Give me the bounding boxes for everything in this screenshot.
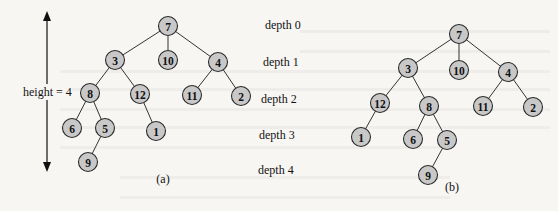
height-label: height = 4 — [23, 85, 72, 99]
node-label: 8 — [426, 101, 432, 113]
tree-node-10: 10 — [159, 51, 178, 70]
tree-node-7: 7 — [159, 17, 178, 36]
node-label: 5 — [444, 135, 450, 147]
tree-b-nodes: 731041281121659 — [352, 25, 543, 185]
tree-node-7: 7 — [450, 25, 469, 44]
tree-node-2: 2 — [232, 87, 251, 106]
depth-labels: depth 0 depth 1 depth 2 depth 3 depth 4 — [258, 18, 301, 177]
node-label: 6 — [69, 123, 75, 135]
depth-label-3: depth 3 — [259, 128, 295, 142]
node-label: 8 — [87, 88, 93, 100]
arrow-up-icon — [43, 11, 51, 21]
node-label: 2 — [530, 102, 536, 114]
node-label: 6 — [410, 134, 416, 146]
tree-node-1: 1 — [147, 122, 166, 141]
node-label: 7 — [456, 29, 462, 41]
depth-label-0: depth 0 — [265, 18, 301, 32]
node-label: 4 — [505, 67, 511, 79]
tree-node-2: 2 — [524, 98, 543, 117]
node-label: 9 — [85, 157, 91, 169]
tree-node-1: 1 — [352, 128, 371, 147]
tree-node-8: 8 — [81, 84, 100, 103]
node-label: 11 — [187, 90, 198, 102]
node-label: 10 — [453, 65, 465, 77]
depth-label-2: depth 2 — [261, 92, 297, 106]
tree-node-12: 12 — [371, 94, 390, 113]
tree-a-caption: (a) — [156, 172, 169, 186]
node-label: 12 — [374, 98, 386, 110]
tree-node-11: 11 — [474, 97, 493, 116]
tree-node-5: 5 — [96, 119, 115, 138]
tree-node-3: 3 — [399, 59, 418, 78]
depth-label-4: depth 4 — [258, 163, 294, 177]
depth-label-1: depth 1 — [263, 55, 299, 69]
tree-node-6: 6 — [63, 119, 82, 138]
tree-diagram: height = 4 depth 0 depth 1 depth 2 depth… — [0, 0, 558, 211]
node-label: 12 — [134, 89, 146, 101]
node-label: 5 — [102, 123, 108, 135]
tree-node-3: 3 — [106, 51, 125, 70]
tree-node-9: 9 — [419, 166, 438, 185]
tree-a: 731048121126519 (a) — [63, 17, 251, 187]
node-label: 7 — [165, 21, 171, 33]
tree-node-11: 11 — [183, 86, 202, 105]
tree-b-caption: (b) — [445, 180, 459, 194]
node-label: 10 — [162, 55, 174, 67]
node-label: 3 — [405, 63, 411, 75]
page-bleed-through — [60, 30, 550, 199]
tree-node-8: 8 — [420, 97, 439, 116]
tree-node-9: 9 — [79, 153, 98, 172]
node-label: 9 — [425, 170, 431, 182]
node-label: 3 — [112, 55, 118, 67]
tree-node-4: 4 — [499, 63, 518, 82]
arrow-down-icon — [43, 162, 51, 172]
tree-node-5: 5 — [438, 131, 457, 150]
tree-node-4: 4 — [209, 53, 228, 72]
node-label: 1 — [358, 132, 364, 144]
tree-node-6: 6 — [404, 130, 423, 149]
tree-node-12: 12 — [131, 85, 150, 104]
node-label: 1 — [153, 126, 159, 138]
tree-node-10: 10 — [450, 61, 469, 80]
node-label: 2 — [238, 91, 244, 103]
node-label: 4 — [215, 57, 221, 69]
node-label: 11 — [478, 101, 489, 113]
